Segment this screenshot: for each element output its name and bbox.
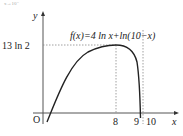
x-axis-label: x: [171, 116, 177, 127]
y-axis-arrow-icon: [41, 11, 45, 16]
y-mark-13ln2: 13 ln 2: [2, 40, 30, 51]
x-mark-9: 9: [134, 116, 139, 127]
function-graph: x→10⁻ y x O 13 ln 2 f(x)=4 ln x+ln(10−x)…: [0, 0, 183, 136]
header-fragment: x→10⁻: [4, 1, 20, 6]
origin-label: O: [33, 114, 40, 125]
x-mark-8: 8: [113, 116, 118, 127]
x-axis-arrow-icon: [174, 111, 179, 115]
function-label: f(x)=4 ln x+ln(10−x): [70, 30, 156, 42]
y-axis-label: y: [32, 10, 38, 21]
function-curve: [47, 45, 141, 122]
x-mark-10: 10: [146, 116, 156, 127]
